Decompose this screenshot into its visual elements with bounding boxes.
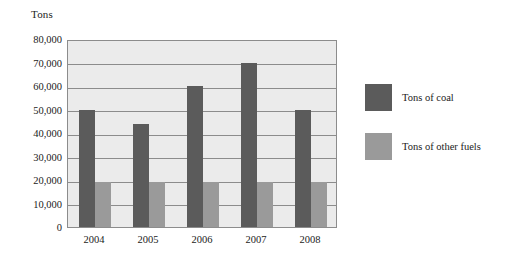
y-axis-tick-labels: 80,00070,00060,00050,00040,00030,00020,0… <box>0 40 62 228</box>
y-axis-tick-label: 20,000 <box>4 176 62 186</box>
y-axis-tick-label: 10,000 <box>4 200 62 210</box>
bar <box>79 110 95 228</box>
x-axis-tick-label: 2008 <box>283 234 337 245</box>
plot-area <box>67 40 337 228</box>
bar-chart: Tons 80,00070,00060,00050,00040,00030,00… <box>0 0 511 268</box>
bar <box>241 63 257 228</box>
bar <box>95 182 111 227</box>
x-axis-tick-label: 2007 <box>229 234 283 245</box>
y-axis-tick-label: 40,000 <box>4 129 62 139</box>
bar <box>187 86 203 227</box>
legend-item[interactable]: Tons of coal <box>365 84 505 111</box>
bar <box>257 182 273 227</box>
legend-swatch-icon <box>365 133 392 160</box>
y-axis-tick-label: 60,000 <box>4 82 62 92</box>
legend-label: Tons of other fuels <box>402 141 481 152</box>
x-axis-tick-label: 2006 <box>175 234 229 245</box>
bar <box>133 124 149 227</box>
bar <box>295 110 311 228</box>
bars-layer <box>68 41 336 227</box>
y-axis-tick-label: 80,000 <box>4 35 62 45</box>
y-axis-tick-label: 50,000 <box>4 106 62 116</box>
y-axis-title: Tons <box>31 8 53 20</box>
legend-item[interactable]: Tons of other fuels <box>365 133 505 160</box>
chart-legend: Tons of coalTons of other fuels <box>365 84 505 182</box>
legend-swatch-icon <box>365 84 392 111</box>
bar <box>203 182 219 227</box>
y-axis-tick-label: 30,000 <box>4 153 62 163</box>
x-axis-tick-label: 2005 <box>121 234 175 245</box>
x-axis-tick-label: 2004 <box>67 234 121 245</box>
legend-label: Tons of coal <box>402 92 454 103</box>
y-axis-tick-label: 70,000 <box>4 59 62 69</box>
bar <box>149 182 165 227</box>
bar <box>311 182 327 227</box>
x-axis-tick-labels: 20042005200620072008 <box>67 234 337 250</box>
y-axis-tick-label: 0 <box>4 223 62 233</box>
